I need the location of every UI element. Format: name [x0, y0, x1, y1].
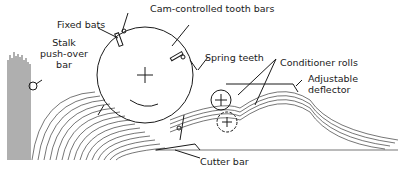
label-spring-teeth: Spring teeth — [205, 53, 264, 63]
cutter-bar — [156, 144, 200, 150]
label-deflector: deflector — [308, 85, 350, 95]
label-cutter-bar: Cutter bar — [200, 157, 249, 167]
leader-pushover — [36, 80, 42, 84]
tooth-bars — [98, 13, 197, 140]
label-stalk: Stalk — [44, 38, 84, 48]
label-cam-tooth-bars: Cam-controlled tooth bars — [150, 4, 274, 14]
swath-flow — [170, 92, 398, 149]
harvester-diagram: Fixed bats Cam-controlled tooth bars Sta… — [0, 0, 398, 172]
standing-crop-left — [8, 52, 30, 160]
label-conditioner-rolls: Conditioner rolls — [280, 58, 358, 68]
label-adjustable: Adjustable — [308, 74, 358, 84]
label-bar: bar — [44, 60, 84, 70]
leader-cutter — [175, 150, 200, 158]
fixed-bats — [115, 33, 183, 61]
bent-crop — [32, 92, 165, 160]
label-fixed-bats: Fixed bats — [57, 20, 105, 30]
label-pushover: push-over — [34, 49, 94, 59]
rotation-arrow — [130, 100, 158, 106]
